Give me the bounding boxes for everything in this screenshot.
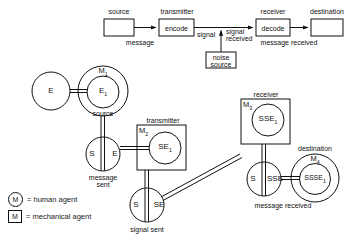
link-channel-a [161,154,240,197]
edge-label-signal-received-2: received [226,35,252,42]
caption-destination: destination [298,145,332,152]
node-label-m3-sub: 3 [249,105,252,111]
caption-message-sent-line2: sent [96,181,109,188]
edge-label-signal: signal [197,31,215,38]
top-destination-caption: destination [310,8,344,15]
node-label-e1-sub: 1 [104,91,107,97]
human-agent-icon-letter: M [13,196,19,203]
node-label-ssse1: SSSE1 [304,174,326,184]
edge-label-signal-received-1: signal [226,28,244,35]
caption-transmitter: transmitter [146,117,179,124]
edge-label-message: message [126,39,154,46]
decode-label: decode [262,25,285,32]
top-source-box [104,19,134,36]
node-label-e1: E1 [99,87,107,97]
human-agent-icon: M [8,192,23,207]
node-label-m1: M1 [98,67,107,77]
legend-label-human-agent: = human agent [27,195,77,204]
node-label-m3: M3 [243,101,252,111]
node-label-se1-sub: 1 [169,147,172,153]
top-source-caption: source [108,8,129,15]
top-receiver-caption: receiver [261,8,286,15]
node-label-split2-right: SE [154,201,165,209]
node-label-m2: M2 [139,127,148,137]
node-label-split3-right: SSE [267,175,283,183]
node-label-se1: SE1 [158,143,172,153]
node-label-split2-left: S [133,201,138,209]
caption-signal-sent: signal sent [130,226,163,233]
caption-message-received: message received [255,202,312,209]
legend-label-mechanical-agent: = mechanical agent [26,212,91,221]
top-destination-box [311,19,343,36]
node-label-sse1-sub: 1 [275,119,278,125]
legend-item-human-agent: M = human agent [8,192,77,207]
edge-label-message-received: message received [261,39,318,46]
noise-source-label-line1: noise [213,54,230,61]
node-label-m1-sub: 1 [105,71,108,77]
noise-source-label-line2: source [210,61,231,68]
legend-item-mechanical-agent: M = mechanical agent [8,210,91,223]
mechanical-agent-icon: M [8,210,22,223]
caption-source: source [92,110,113,117]
node-label-split1-right: E [112,150,117,158]
figure-canvas: source transmitter receiver destination … [0,0,361,244]
node-label-m4: M4 [310,155,319,165]
caption-receiver: receiver [254,91,279,98]
node-label-m2-sub: 2 [145,131,148,137]
top-transmitter-caption: transmitter [160,8,193,15]
encode-label: encode [165,25,188,32]
node-label-e-plain: E [48,87,53,95]
node-label-m4-sub: 4 [317,159,320,165]
node-label-sse1-letter: SSE [259,114,275,123]
mechanical-agent-icon-letter: M [12,213,18,220]
node-label-ssse1-letter: SSSE [304,174,323,181]
node-label-split3-left: S [250,175,255,183]
node-label-ssse1-sub: 1 [323,178,326,184]
node-label-se1-letter: SE [158,142,169,151]
node-label-split1-left: S [89,150,94,158]
caption-message-sent-line1: message [89,174,117,181]
node-label-sse1: SSE1 [259,115,278,125]
link-channel-b [163,158,242,201]
